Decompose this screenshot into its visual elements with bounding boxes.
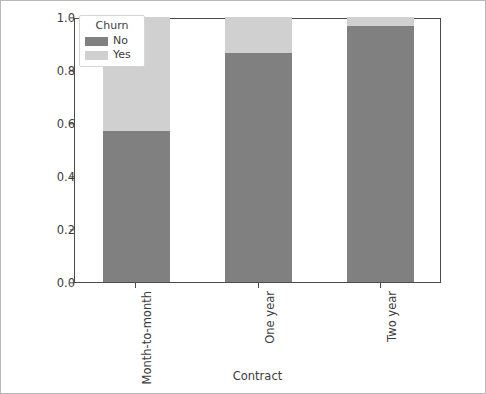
bar-stack bbox=[347, 17, 414, 282]
legend-item-no[interactable]: No bbox=[85, 34, 139, 48]
x-tick-mark bbox=[380, 283, 381, 288]
legend-item-yes[interactable]: Yes bbox=[85, 48, 139, 62]
y-tick-label: 0.8 bbox=[35, 64, 75, 78]
legend: Churn NoYes bbox=[79, 15, 145, 67]
bar-group bbox=[225, 19, 292, 282]
bar-stack bbox=[225, 17, 292, 282]
bar-segment-no bbox=[225, 53, 292, 282]
x-tick-label: Two year bbox=[385, 291, 399, 342]
legend-item-label: No bbox=[113, 35, 128, 47]
y-tick-label: 0.6 bbox=[35, 117, 75, 131]
y-tick-label: 1.0 bbox=[35, 11, 75, 25]
legend-item-label: Yes bbox=[113, 49, 131, 61]
x-tick-mark bbox=[135, 283, 136, 288]
y-tick-label: 0.4 bbox=[35, 170, 75, 184]
y-tick-label: 0.2 bbox=[35, 223, 75, 237]
bar-segment-yes bbox=[225, 17, 292, 53]
bar-group bbox=[347, 19, 414, 282]
x-axis-label: Contract bbox=[74, 369, 441, 383]
x-tick-label: One year bbox=[263, 291, 277, 344]
x-tick-mark bbox=[258, 283, 259, 288]
legend-swatch-icon bbox=[85, 51, 108, 60]
y-tick-label: 0.0 bbox=[35, 276, 75, 290]
bar-segment-yes bbox=[347, 17, 414, 26]
legend-title: Churn bbox=[85, 19, 139, 32]
legend-entries: NoYes bbox=[85, 34, 139, 62]
bar-segment-no bbox=[347, 26, 414, 282]
bar-segment-no bbox=[103, 131, 170, 282]
legend-swatch-icon bbox=[85, 37, 108, 46]
chart-figure: 0.00.20.40.60.81.0 Month-to-monthOne yea… bbox=[0, 0, 486, 394]
x-axis: Month-to-monthOne yearTwo year bbox=[74, 283, 441, 383]
